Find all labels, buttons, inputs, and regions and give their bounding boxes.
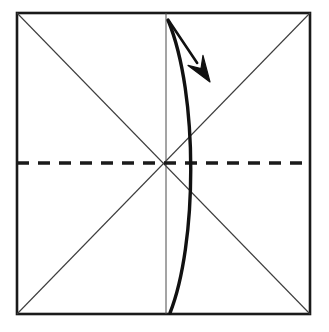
diagram-svg (0, 0, 329, 332)
origami-diagram-canvas (0, 0, 329, 332)
